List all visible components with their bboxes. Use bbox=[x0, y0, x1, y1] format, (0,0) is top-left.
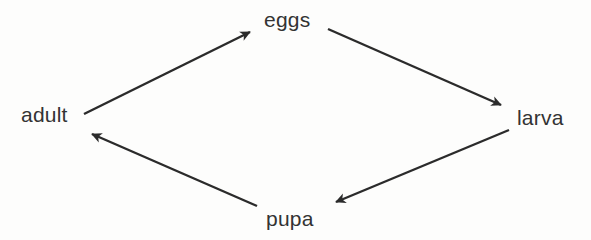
edge-pupa-to-adult bbox=[92, 134, 257, 206]
edge-eggs-to-larva bbox=[328, 29, 501, 105]
life-cycle-diagram: eggs larva pupa adult bbox=[0, 0, 591, 240]
edge-larva-to-pupa bbox=[336, 130, 509, 202]
cycle-arrows-svg bbox=[0, 0, 591, 240]
node-label-adult: adult bbox=[21, 104, 68, 125]
node-label-eggs: eggs bbox=[264, 9, 310, 30]
node-label-larva: larva bbox=[517, 107, 564, 128]
edge-adult-to-eggs bbox=[84, 32, 250, 114]
node-label-pupa: pupa bbox=[266, 208, 314, 229]
